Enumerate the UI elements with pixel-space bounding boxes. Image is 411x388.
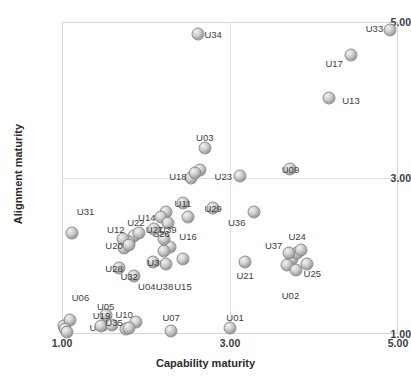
x-tick-label: 5.00 — [388, 337, 408, 349]
data-point-label: U01 — [226, 311, 243, 322]
scatter-chart: 1.003.005.001.003.005.00 U01U02U03U04U05… — [0, 0, 411, 388]
data-point-marker — [165, 324, 178, 337]
x-axis-title: Capability maturity — [0, 357, 411, 369]
data-point-label: U06 — [72, 291, 89, 302]
data-point-label: U04 — [138, 280, 155, 291]
data-point-marker — [234, 170, 247, 183]
data-point-marker — [133, 226, 146, 239]
data-point-marker — [66, 226, 79, 239]
data-point-label: U39 — [159, 224, 176, 235]
data-point-marker — [176, 253, 189, 266]
data-point-marker — [294, 243, 307, 256]
data-point-marker — [188, 167, 201, 180]
data-point-label: U12 — [107, 224, 124, 235]
data-point-marker — [123, 321, 136, 334]
data-point-label: U36 — [228, 216, 245, 227]
data-point-label: U13 — [342, 95, 359, 106]
data-point-label: U07 — [162, 311, 179, 322]
data-point-label: U38 — [156, 280, 173, 291]
data-point-label: U23 — [215, 171, 232, 182]
data-point-marker — [282, 246, 295, 259]
data-point-marker — [383, 23, 396, 36]
data-point-marker — [123, 239, 136, 252]
data-point-label: U02 — [282, 290, 299, 301]
data-point-marker — [160, 257, 173, 270]
data-point-label: U29 — [204, 202, 221, 213]
data-point-label: U18 — [169, 171, 186, 182]
data-point-label: U31 — [77, 205, 94, 216]
data-point-label: U35 — [105, 316, 122, 327]
data-point-label: U21 — [236, 269, 253, 280]
data-point-label: U11 — [175, 197, 192, 208]
data-point-marker — [224, 321, 237, 334]
data-point-label: U16 — [179, 230, 196, 241]
y-tick-label: 3.00 — [355, 172, 411, 184]
data-point-label: U17 — [325, 57, 342, 68]
data-point-label: U15 — [174, 280, 191, 291]
y-axis-title: Alignment maturity — [12, 84, 24, 264]
data-point-label: U37 — [265, 240, 282, 251]
data-point-marker — [344, 48, 357, 61]
data-point-marker — [239, 256, 252, 269]
data-point-marker — [323, 92, 336, 105]
data-point-marker — [182, 211, 195, 224]
x-tick-label: 1.00 — [52, 337, 72, 349]
data-point-label: U32 — [120, 271, 137, 282]
data-point-marker — [198, 142, 211, 155]
data-point-label: U03 — [196, 132, 213, 143]
data-point-marker — [192, 28, 205, 41]
data-point-marker — [247, 206, 260, 219]
data-point-label: U34 — [204, 29, 221, 40]
x-tick-label: 3.00 — [220, 337, 240, 349]
data-point-label: U22 — [127, 216, 144, 227]
data-point-label: U33 — [366, 23, 383, 34]
data-point-label: U24 — [288, 230, 305, 241]
data-point-label: U09 — [282, 163, 299, 174]
data-point-label: U20 — [105, 240, 122, 251]
data-point-marker — [61, 326, 74, 339]
data-point-label: U25 — [304, 268, 321, 279]
